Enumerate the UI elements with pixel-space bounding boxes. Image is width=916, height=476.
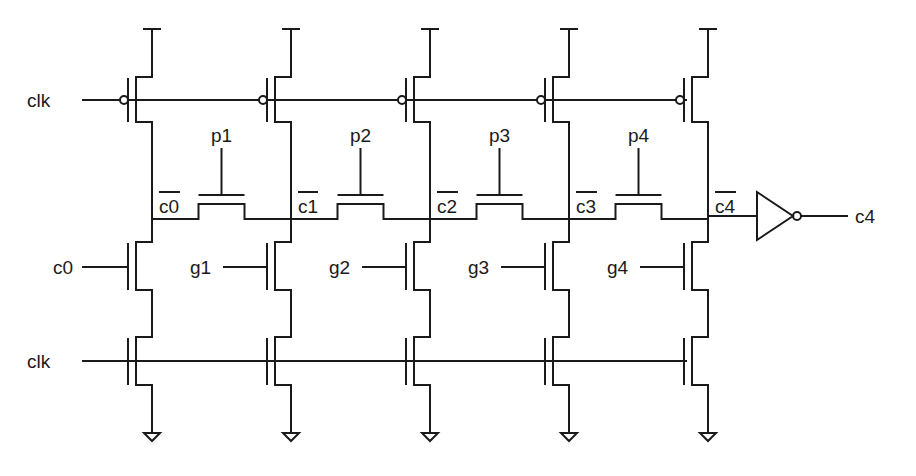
node-c4-bar-label: c4 bbox=[715, 196, 736, 217]
c0-input-label: c0 bbox=[53, 257, 73, 278]
stage-0 bbox=[82, 29, 291, 441]
g4-label: g4 bbox=[607, 257, 629, 278]
p1-label: p1 bbox=[211, 125, 232, 146]
inverter bbox=[757, 192, 848, 240]
clk-top-label: clk bbox=[27, 90, 51, 111]
c4-output-label: c4 bbox=[855, 206, 876, 227]
inverter-triangle bbox=[757, 192, 793, 240]
stage-1 bbox=[223, 29, 430, 441]
stage-4 bbox=[640, 29, 757, 441]
p2-label: p2 bbox=[350, 125, 371, 146]
p4-label: p4 bbox=[628, 125, 650, 146]
node-c2-bar-label: c2 bbox=[437, 196, 457, 217]
stage-2 bbox=[362, 29, 569, 441]
node-c0-bar-label: c0 bbox=[159, 196, 179, 217]
carry-chain-schematic: clk clk c0 c4 p1 p2 p3 p4 g1 g2 g3 g4 c0… bbox=[0, 0, 916, 476]
g1-label: g1 bbox=[190, 257, 211, 278]
clk-bottom-label: clk bbox=[27, 351, 51, 372]
g3-label: g3 bbox=[468, 257, 489, 278]
g2-label: g2 bbox=[329, 257, 350, 278]
stage-3 bbox=[501, 29, 708, 441]
p3-label: p3 bbox=[489, 125, 510, 146]
node-c1-bar-label: c1 bbox=[298, 196, 318, 217]
node-c3-bar-label: c3 bbox=[576, 196, 596, 217]
